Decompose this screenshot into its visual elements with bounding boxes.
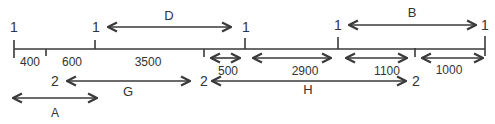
span-a-label: A [51, 106, 59, 120]
span-g-label: G [123, 84, 133, 99]
segment-label: 600 [62, 55, 82, 69]
distance-diagram: 1 1 1 1 1 D B 400 600 3500 500 2900 1100… [0, 0, 495, 124]
span-d-label: D [164, 8, 173, 23]
ticks [14, 36, 485, 58]
segment-label: 1000 [436, 63, 463, 77]
segment-label: 3500 [135, 55, 162, 69]
node-label-top: 1 [242, 19, 250, 35]
node-label-bottom: 2 [200, 73, 208, 89]
node-label-top: 1 [92, 19, 100, 35]
span-b-label: B [408, 5, 417, 20]
node-label-top: 1 [334, 17, 342, 33]
node-label-top: 1 [481, 17, 489, 33]
node-label-bottom: 2 [51, 73, 59, 89]
segment-label: 1100 [374, 64, 400, 78]
span-h-label: H [303, 82, 312, 97]
segment-label: 500 [218, 64, 238, 78]
node-label-bottom: 2 [412, 73, 420, 89]
node-label-top: 1 [10, 19, 18, 35]
segment-label: 400 [20, 55, 40, 69]
segment-label: 2900 [292, 64, 319, 78]
